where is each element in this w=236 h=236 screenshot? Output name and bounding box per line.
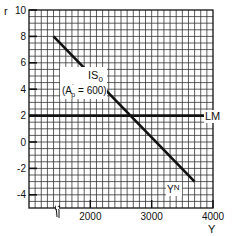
- x-tick-label: 4000: [202, 211, 225, 222]
- is-lm-chart: -4-20246810 200030004000 r Y IS0 (A´p = …: [0, 0, 236, 236]
- y-tick-label: -2: [17, 163, 26, 174]
- y-tick-label: 0: [20, 137, 26, 148]
- y-tick-label: 10: [15, 5, 27, 16]
- x-axis-ticks: 200030004000: [79, 200, 224, 222]
- y-axis-label: r: [4, 5, 8, 17]
- x-axis-label: Y: [208, 223, 216, 235]
- x-tick-label: 2000: [79, 211, 102, 222]
- y-tick-label: 8: [20, 31, 26, 42]
- y-tick-label: -4: [17, 189, 26, 200]
- y-tick-label: 2: [20, 110, 26, 121]
- x-tick-label: 3000: [141, 211, 164, 222]
- lm-curve-label: LM: [205, 110, 220, 122]
- y-tick-label: 6: [20, 57, 26, 68]
- y-tick-label: 4: [20, 84, 26, 95]
